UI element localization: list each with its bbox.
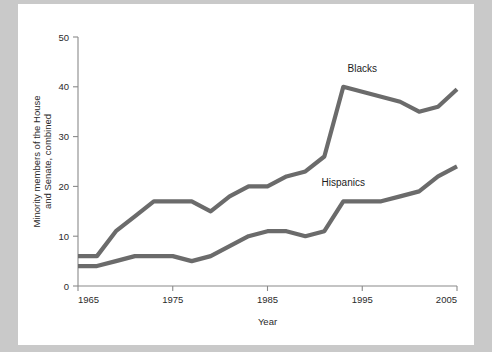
y-axis: 01020304050	[58, 32, 78, 292]
y-axis-title-line: and Senate, combined	[42, 114, 53, 209]
y-axis-tick-label: 0	[64, 281, 69, 292]
x-axis-tick-label: 1995	[352, 294, 373, 305]
series-lines	[78, 87, 457, 266]
line-chart: 01020304050 19651975198519952005 BlacksH…	[18, 4, 474, 345]
series-labels: BlacksHispanics	[322, 63, 377, 189]
y-axis-tick-label: 20	[58, 181, 69, 192]
x-axis-tick-label: 1965	[78, 294, 99, 305]
y-axis-tick-label: 50	[58, 32, 69, 43]
y-axis-title-line: Minority members of the House	[31, 96, 42, 228]
chart-page: 01020304050 19651975198519952005 BlacksH…	[0, 0, 492, 352]
x-axis-tick-label: 2005	[436, 294, 457, 305]
x-axis-title: Year	[258, 316, 277, 327]
chart-card: 01020304050 19651975198519952005 BlacksH…	[18, 4, 474, 345]
y-axis-tick-label: 30	[58, 131, 69, 142]
x-axis-tick-label: 1985	[257, 294, 278, 305]
x-axis-tick-label: 1975	[162, 294, 183, 305]
series-label-hispanics: Hispanics	[322, 177, 365, 188]
y-axis-tick-label: 40	[58, 81, 69, 92]
y-axis-tick-label: 10	[58, 231, 69, 242]
chart-svg: 01020304050 19651975198519952005 BlacksH…	[18, 4, 474, 345]
series-label-blacks: Blacks	[348, 63, 377, 74]
x-axis: 19651975198519952005	[78, 286, 457, 305]
